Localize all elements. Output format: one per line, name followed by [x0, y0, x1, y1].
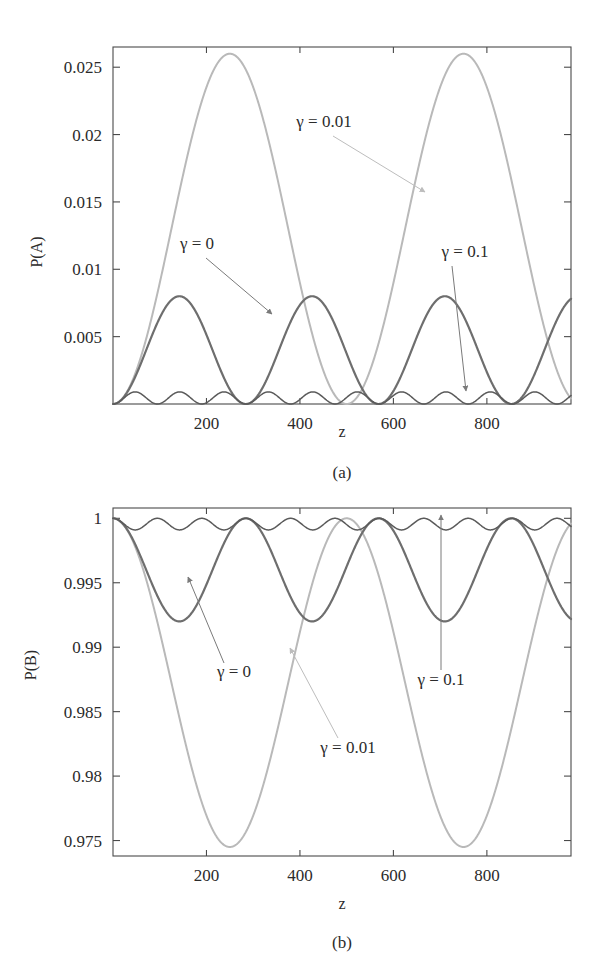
- panel-b-annotations: γ = 0γ = 0.01γ = 0.1: [188, 515, 464, 757]
- panel-a-curves: [113, 54, 571, 404]
- y-tick-label: 0.02: [72, 126, 102, 145]
- annotation-arrow: [188, 577, 224, 663]
- curve-gamma_0: [113, 296, 571, 404]
- panel-a-annotations: γ = 0.01γ = 0γ = 0.1: [179, 112, 488, 391]
- x-tick-label: 800: [474, 866, 500, 885]
- panel-a-x-axis-label: z: [338, 423, 345, 440]
- figure-root: · · · · · · · · · · · · 2004006008000.00…: [0, 0, 593, 969]
- panel-b-x-axis-label: z: [338, 895, 345, 912]
- panel-a-y-axis-label: P(A): [28, 236, 46, 267]
- x-tick-label: 400: [287, 414, 313, 433]
- x-tick-label: 200: [194, 414, 220, 433]
- y-tick-label: 0.005: [64, 328, 102, 347]
- x-tick-label: 400: [287, 866, 313, 885]
- panel-a: 2004006008000.0050.010.0150.020.025 γ = …: [0, 20, 593, 490]
- annotation-arrow: [290, 648, 338, 738]
- panel-b-y-axis-label: P(B): [22, 650, 40, 680]
- y-tick-label: 0.01: [72, 260, 102, 279]
- y-tick-label: 0.975: [64, 832, 102, 851]
- panel-a-axis: 2004006008000.0050.010.0150.020.025: [64, 47, 571, 433]
- annotation-arrow: [206, 258, 272, 314]
- y-tick-label: 1: [94, 509, 103, 528]
- panel-b-tag: (b): [332, 933, 352, 952]
- y-tick-label: 0.015: [64, 193, 102, 212]
- x-tick-label: 200: [194, 866, 220, 885]
- curve-gamma_01: [113, 518, 571, 530]
- y-tick-label: 0.99: [72, 638, 102, 657]
- y-tick-label: 0.985: [64, 703, 102, 722]
- y-tick-label: 0.025: [64, 58, 102, 77]
- annotation-label: γ = 0: [216, 662, 251, 681]
- annotation-label: γ = 0.01: [295, 112, 351, 131]
- curve-gamma_001: [113, 54, 571, 404]
- annotation-arrow: [452, 266, 466, 391]
- panel-b-curves: [113, 518, 571, 847]
- annotation-label: γ = 0.1: [417, 670, 465, 689]
- x-tick-label: 600: [381, 414, 407, 433]
- y-tick-label: 0.98: [72, 767, 102, 786]
- panel-b-plot: 2004006008000.9750.980.9850.990.9951 γ =…: [0, 485, 593, 969]
- curve-gamma_0: [113, 518, 571, 621]
- cropped-caption-fragment: · · · · · · · · · · · ·: [0, 0, 593, 18]
- panel-a-tag: (a): [333, 463, 352, 482]
- annotation-label: γ = 0: [179, 234, 214, 253]
- panel-a-plot: 2004006008000.0050.010.0150.020.025 γ = …: [0, 20, 593, 490]
- curve-gamma_001: [113, 518, 571, 847]
- annotation-label: γ = 0.1: [441, 242, 489, 261]
- annotation-label: γ = 0.01: [319, 738, 375, 757]
- annotation-arrow: [333, 136, 425, 192]
- panel-b: 2004006008000.9750.980.9850.990.9951 γ =…: [0, 485, 593, 969]
- x-tick-label: 600: [381, 866, 407, 885]
- y-tick-label: 0.995: [64, 574, 102, 593]
- x-tick-label: 800: [474, 414, 500, 433]
